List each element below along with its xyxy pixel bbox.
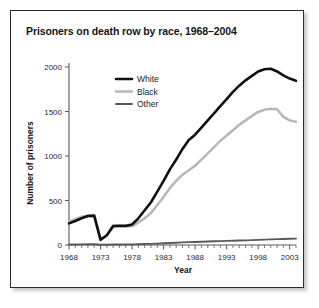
y-tick-label: 1500: [44, 108, 62, 117]
x-axis: 19681973197819831988199319982003: [60, 245, 299, 262]
x-tick-label: 1968: [60, 253, 78, 262]
x-tick-label: 1978: [123, 253, 141, 262]
x-tick-label: 1983: [155, 253, 173, 262]
x-axis-title: Year: [174, 265, 193, 275]
x-tick-label: 1993: [218, 253, 236, 262]
y-tick-label: 500: [49, 197, 63, 206]
x-tick-label: 2003: [281, 253, 299, 262]
series-line-white: [69, 69, 296, 240]
y-axis-title: Number of prisoners: [25, 121, 35, 205]
chart-figure: Prisoners on death row by race, 1968–200…: [0, 0, 319, 308]
legend-label-black: Black: [137, 87, 159, 97]
legend-label-white: White: [137, 74, 159, 84]
chart-frame: Prisoners on death row by race, 1968–200…: [10, 10, 304, 288]
y-tick-label: 2000: [44, 63, 62, 72]
y-tick-label: 0: [58, 241, 63, 250]
chart-legend: WhiteBlackOther: [116, 74, 159, 109]
x-tick-label: 1973: [92, 253, 110, 262]
series-lines: [69, 69, 296, 245]
legend-label-other: Other: [137, 99, 158, 109]
y-axis: 0500100015002000: [44, 63, 69, 250]
series-line-black: [69, 109, 296, 240]
y-tick-label: 1000: [44, 152, 62, 161]
x-tick-label: 1998: [249, 253, 267, 262]
plot-area: 0500100015002000 19681973197819831988199…: [11, 11, 305, 289]
line-chart-svg: 0500100015002000 19681973197819831988199…: [11, 11, 305, 289]
x-tick-label: 1988: [186, 253, 204, 262]
